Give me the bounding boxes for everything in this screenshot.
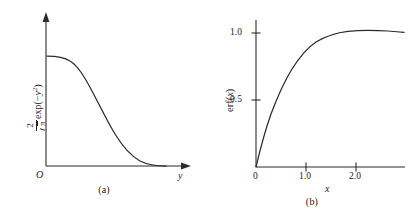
panel-a-origin-label: O [36,169,43,180]
sqrt-icon: π [37,121,47,130]
panel-b-x-tick-label-2.0: 2.0 [349,171,361,181]
plot-panel-a: 2 π exp(−y2) O y (a) [0,0,208,214]
panel-a-gaussian-curve [47,56,166,166]
exp-function-text: exp( [32,101,43,119]
panel-b-x-tick-label-1.0: 1.0 [299,171,311,181]
panel-b-y-tick-label-0.5: 0.5 [230,94,242,104]
erf-close-paren: ) [224,89,235,93]
panel-a-fraction: 2 π [26,120,47,131]
fraction-denominator: π [37,120,47,131]
panel-a-caption: (a) [0,184,208,195]
panel-b-caption: (b) [208,196,416,207]
panel-b-y-tick-label-1.0: 1.0 [230,27,242,37]
exp-close-paren: ) [32,84,43,87]
exp-variable: y [32,91,43,95]
panel-b-erf-curve [256,30,404,167]
exp-exponent: 2 [31,88,38,91]
panel-b-x-tick-label-0: 0 [253,171,258,181]
fraction-numerator: 2 [26,120,35,131]
plot-panel-b: erf(x) 1.0 0.5 0 1.0 2.0 x (b) [208,0,416,214]
panel-b-x-axis-name: x [325,183,329,194]
figure-container: 2 π exp(−y2) O y (a) [0,0,416,214]
panel-a-y-axis-arrowhead [43,12,50,22]
panel-a-x-axis-arrowhead [181,163,191,170]
panel-a-x-axis-name: y [178,170,182,181]
minus-sign: − [32,96,43,102]
panel-a-y-axis-label: 2 π exp(−y2) [26,84,47,132]
